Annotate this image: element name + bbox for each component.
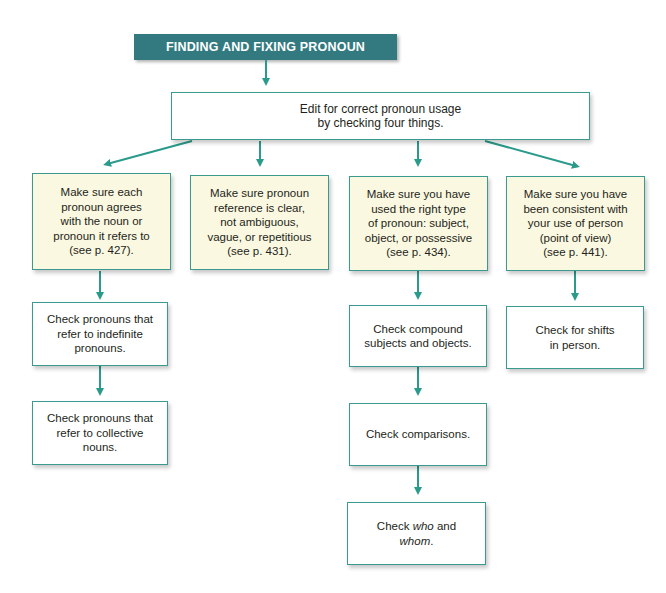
column-3-step-1-box: Check compound subjects and objects. (349, 305, 487, 367)
column-2-main-box: Make sure pronoun reference is clear, no… (190, 175, 329, 270)
root-text: Edit for correct pronoun usage by checki… (300, 102, 461, 131)
column-4-main-box: Make sure you have been consistent with … (506, 176, 645, 271)
column-1-step-1-box: Check pronouns that refer to indefinite … (32, 302, 168, 366)
connector-arrows (0, 0, 666, 593)
column-1-main-box: Make sure each pronoun agrees with the n… (32, 173, 171, 270)
column-1-step-2-box: Check pronouns that refer to collective … (32, 401, 168, 465)
root-box: Edit for correct pronoun usage by checki… (171, 92, 590, 140)
column-3-main-box: Make sure you have used the right type o… (349, 176, 488, 271)
column-3-step-2-box: Check comparisons. (349, 403, 487, 466)
column-3-step-3-box: Check who andwhom. (347, 502, 486, 565)
who-whom-text: Check who andwhom. (377, 519, 456, 548)
column-4-step-1-box: Check for shifts in person. (506, 306, 644, 369)
